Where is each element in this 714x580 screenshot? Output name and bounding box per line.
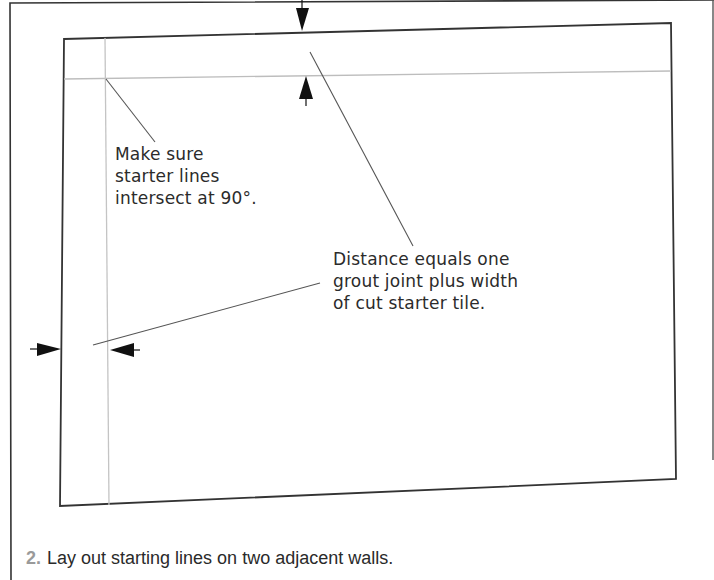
annotation-line: Distance equals one — [333, 248, 518, 270]
intersect-annotation: Make sure starter lines intersect at 90°… — [115, 143, 257, 209]
caption-text: Lay out starting lines on two adjacent w… — [47, 548, 393, 568]
step-number: 2. — [26, 548, 41, 568]
annotation-line: grout joint plus width — [333, 270, 518, 292]
distance-annotation: Distance equals one grout joint plus wid… — [333, 248, 518, 314]
vertical-starter-line — [105, 38, 109, 505]
annotation-line: of cut starter tile. — [333, 292, 518, 314]
intersect-leader-line — [106, 79, 155, 142]
arrow-down-icon — [296, 0, 309, 31]
figure-caption: 2.Lay out starting lines on two adjacent… — [26, 548, 393, 569]
distance-left-leader-line — [93, 283, 320, 345]
arrow-up-icon — [299, 76, 313, 106]
arrow-left-icon — [110, 343, 140, 357]
annotation-line: Make sure — [115, 143, 257, 165]
distance-top-leader-line — [310, 52, 413, 246]
arrow-right-icon — [30, 343, 61, 356]
annotation-line: intersect at 90°. — [115, 187, 257, 209]
horizontal-starter-line — [64, 71, 671, 79]
annotation-line: starter lines — [115, 165, 257, 187]
